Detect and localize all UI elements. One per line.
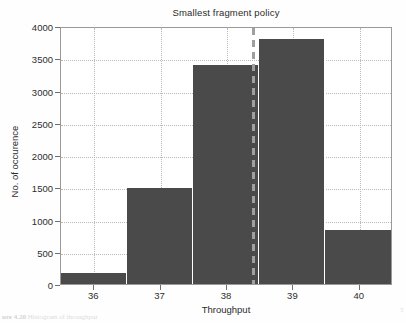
y-tick-mark [55, 92, 60, 93]
bar-40 [325, 230, 391, 284]
caption-remnant-number: ure 4.20 [2, 313, 26, 321]
bar-36 [61, 273, 127, 284]
y-tick-label: 3000 [32, 86, 53, 97]
threshold-line-annotation [252, 28, 255, 284]
y-tick-label: 4000 [32, 22, 53, 33]
y-tick-mark [55, 221, 60, 222]
bar-39 [259, 39, 325, 284]
plot-area [60, 27, 392, 285]
y-tick-label: 500 [37, 247, 53, 258]
y-tick-label: 1500 [32, 183, 53, 194]
caption-remnant-text: Histogram of throughput [28, 313, 98, 321]
y-tick-label: 2500 [32, 118, 53, 129]
y-tick-mark [55, 156, 60, 157]
y-tick-label: 0 [48, 280, 53, 291]
x-tick-label: 40 [354, 290, 365, 301]
page-corner-mark: T [400, 306, 404, 314]
y-tick-mark [55, 188, 60, 189]
y-tick-mark [55, 285, 60, 286]
y-tick-mark [55, 27, 60, 28]
y-tick-mark [55, 124, 60, 125]
x-tick-label: 36 [88, 290, 99, 301]
y-tick-mark [55, 253, 60, 254]
y-tick-label: 3500 [32, 54, 53, 65]
y-tick-label: 1000 [32, 215, 53, 226]
x-tick-label: 38 [221, 290, 232, 301]
gridline-horizontal [61, 60, 391, 61]
y-tick-label: 2000 [32, 151, 53, 162]
y-axis-label: No. of occurence [9, 92, 20, 232]
gridline-vertical [94, 28, 95, 284]
bar-38 [193, 65, 259, 284]
bar-37 [127, 188, 193, 284]
caption-remnant: ure 4.20 Histogram of throughput [2, 313, 192, 322]
y-tick-mark [55, 59, 60, 60]
chart-title: Smallest fragment policy [60, 7, 392, 18]
figure-container: Smallest fragment policy 4000 3500 3000 … [0, 0, 406, 323]
x-tick-label: 37 [154, 290, 165, 301]
x-tick-label: 39 [287, 290, 298, 301]
